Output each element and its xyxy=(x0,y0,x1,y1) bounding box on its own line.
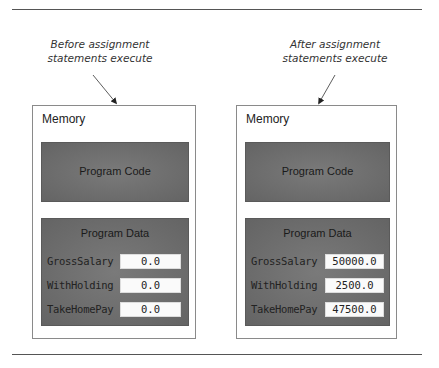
variable-value: 0.0 xyxy=(120,278,181,293)
variable-value: 0.0 xyxy=(120,302,181,317)
variable-row: TakeHomePay 47500.0 xyxy=(246,302,389,317)
variable-name: WithHolding xyxy=(251,278,317,293)
memory-label: Memory xyxy=(246,112,289,126)
after-arrow xyxy=(319,75,335,103)
variable-name: GrossSalary xyxy=(47,254,113,269)
memory-before: Memory Program Code Program Data GrossSa… xyxy=(32,105,196,339)
program-data-panel: Program Data GrossSalary 0.0 WithHolding… xyxy=(41,218,189,326)
program-code-panel: Program Code xyxy=(41,142,189,202)
variable-row: GrossSalary 0.0 xyxy=(42,254,188,269)
program-code-panel: Program Code xyxy=(245,142,390,202)
variable-name: GrossSalary xyxy=(251,254,317,269)
variable-value: 0.0 xyxy=(120,254,181,269)
variable-name: WithHolding xyxy=(47,278,113,293)
variable-row: WithHolding 0.0 xyxy=(42,278,188,293)
memory-after: Memory Program Code Program Data GrossSa… xyxy=(236,105,397,339)
variable-row: TakeHomePay 0.0 xyxy=(42,302,188,317)
program-data-label: Program Data xyxy=(246,227,389,239)
variable-name: TakeHomePay xyxy=(251,302,317,317)
program-data-label: Program Data xyxy=(42,227,188,239)
program-data-panel: Program Data GrossSalary 50000.0 WithHol… xyxy=(245,218,390,326)
before-arrow xyxy=(93,75,116,103)
program-code-label: Program Code xyxy=(42,165,188,177)
variable-row: GrossSalary 50000.0 xyxy=(246,254,389,269)
memory-label: Memory xyxy=(42,112,85,126)
variable-value: 47500.0 xyxy=(325,302,384,317)
variable-value: 50000.0 xyxy=(325,254,384,269)
variable-row: WithHolding 2500.0 xyxy=(246,278,389,293)
variable-value: 2500.0 xyxy=(325,278,384,293)
variable-name: TakeHomePay xyxy=(47,302,113,317)
program-code-label: Program Code xyxy=(246,165,389,177)
